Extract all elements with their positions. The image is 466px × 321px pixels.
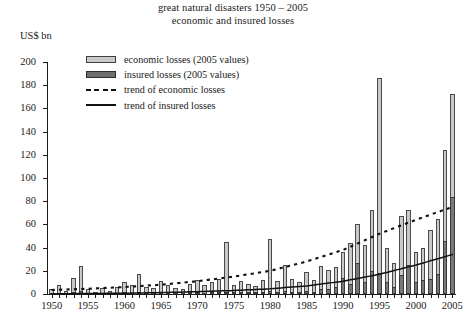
x-tick-1983	[292, 294, 293, 298]
trend-lines	[48, 62, 456, 294]
x-tick-2003	[438, 294, 439, 298]
x-tick-1968	[183, 294, 184, 298]
y-tick-label-100: 100	[20, 173, 36, 183]
x-tick-1962	[139, 294, 140, 298]
y-tick-label-120: 120	[20, 150, 36, 160]
x-tick-1965	[161, 294, 162, 298]
x-tick-1979	[263, 294, 264, 298]
y-tick-0: 0	[43, 294, 48, 295]
x-tick-1958	[110, 294, 111, 298]
x-tick-label-1975: 1975	[223, 300, 244, 311]
x-tick-1954	[81, 294, 82, 298]
x-tick-1996	[387, 294, 388, 298]
x-tick-1974	[227, 294, 228, 298]
x-tick-1971	[205, 294, 206, 298]
x-tick-1969	[190, 294, 191, 298]
y-tick-label-200: 200	[20, 57, 36, 67]
x-tick-1986	[314, 294, 315, 298]
x-tick-1978	[256, 294, 257, 298]
x-tick-1964	[154, 294, 155, 298]
x-tick-1987	[321, 294, 322, 298]
x-tick-1951	[59, 294, 60, 298]
x-tick-1990	[343, 294, 344, 298]
x-tick-1963	[146, 294, 147, 298]
x-tick-1995	[380, 294, 381, 298]
x-tick-1984	[299, 294, 300, 298]
x-tick-1977	[248, 294, 249, 298]
x-tick-1991	[350, 294, 351, 298]
y-axis-label: US$ bn	[20, 30, 52, 41]
x-tick-label-2000: 2000	[405, 300, 426, 311]
y-tick-label-180: 180	[20, 80, 36, 90]
x-tick-1985	[307, 294, 308, 298]
x-tick-1966	[168, 294, 169, 298]
x-tick-1998	[401, 294, 402, 298]
x-tick-label-1970: 1970	[187, 300, 208, 311]
x-tick-1975	[234, 294, 235, 298]
x-tick-label-1960: 1960	[114, 300, 135, 311]
x-tick-1957	[103, 294, 104, 298]
x-tick-1976	[241, 294, 242, 298]
x-tick-1981	[278, 294, 279, 298]
y-tick-label-40: 40	[26, 243, 37, 253]
chart-title: great natural disasters 1950 – 2005 econ…	[0, 2, 466, 27]
x-tick-1982	[285, 294, 286, 298]
x-tick-1992	[358, 294, 359, 298]
y-tick-label-0: 0	[31, 289, 36, 299]
x-tick-label-1950: 1950	[41, 300, 62, 311]
x-tick-1997	[394, 294, 395, 298]
y-tick-label-20: 20	[26, 266, 37, 276]
x-tick-2004	[445, 294, 446, 298]
x-tick-1950	[52, 294, 53, 298]
x-tick-label-1985: 1985	[296, 300, 317, 311]
x-tick-1994	[372, 294, 373, 298]
chart-root: great natural disasters 1950 – 2005 econ…	[0, 0, 466, 321]
title-line-2: economic and insured losses	[0, 15, 466, 28]
x-tick-2002	[431, 294, 432, 298]
title-line-1: great natural disasters 1950 – 2005	[0, 2, 466, 15]
x-tick-1972	[212, 294, 213, 298]
x-tick-1973	[219, 294, 220, 298]
x-tick-2001	[423, 294, 424, 298]
x-tick-1989	[336, 294, 337, 298]
x-tick-1993	[365, 294, 366, 298]
y-tick-label-60: 60	[26, 219, 37, 229]
x-tick-label-1980: 1980	[260, 300, 281, 311]
x-tick-1960	[125, 294, 126, 298]
trend-line-economic	[52, 207, 453, 290]
x-tick-label-1965: 1965	[150, 300, 171, 311]
x-tick-label-2005: 2005	[442, 300, 463, 311]
y-tick-label-80: 80	[26, 196, 37, 206]
x-tick-1955	[88, 294, 89, 298]
x-tick-1980	[270, 294, 271, 298]
y-tick-label-160: 160	[20, 103, 36, 113]
y-tick-label-140: 140	[20, 127, 36, 137]
x-tick-1961	[132, 294, 133, 298]
x-tick-1988	[329, 294, 330, 298]
x-tick-1999	[409, 294, 410, 298]
x-tick-1953	[74, 294, 75, 298]
x-tick-1967	[176, 294, 177, 298]
x-tick-label-1955: 1955	[78, 300, 99, 311]
x-tick-label-1995: 1995	[369, 300, 390, 311]
x-tick-1952	[66, 294, 67, 298]
x-tick-1959	[117, 294, 118, 298]
plot-area: 020406080100120140160180200 195019551960…	[48, 62, 456, 294]
x-tick-1956	[95, 294, 96, 298]
x-tick-label-1990: 1990	[333, 300, 354, 311]
x-tick-2005	[452, 294, 453, 298]
x-tick-2000	[416, 294, 417, 298]
x-tick-1970	[197, 294, 198, 298]
